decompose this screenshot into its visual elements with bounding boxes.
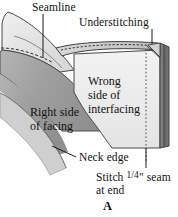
label-right-side-of-facing: Right side of facing <box>30 105 79 133</box>
label-right-side-of-facing-line2: of facing <box>30 119 79 133</box>
figure-container: Seamline Understitching Right side of fa… <box>0 0 178 217</box>
label-wrong-side-of-interfacing-line1: Wrong <box>88 74 140 88</box>
label-seamline: Seamline <box>32 1 76 14</box>
label-wrong-side-of-interfacing-line2: side of <box>88 88 140 102</box>
right-fold-edge-strip <box>160 43 169 148</box>
stitch-note-word: Stitch <box>96 171 123 183</box>
label-stitch-seam-note: Stitch 1/4" seam at end <box>96 170 178 196</box>
label-neck-edge: Neck edge <box>79 151 129 164</box>
figure-caption: A <box>103 199 112 213</box>
stitch-note-tail: " seam <box>139 171 171 183</box>
label-understitching: Understitching <box>79 16 149 29</box>
label-wrong-side-of-interfacing: Wrong side of interfacing <box>88 74 140 116</box>
label-right-side-of-facing-line1: Right side <box>30 105 79 119</box>
stitch-note-fraction: 1/4 <box>126 170 138 180</box>
stitch-note-second-line: at end <box>96 184 124 196</box>
label-wrong-side-of-interfacing-line3: interfacing <box>88 102 140 116</box>
